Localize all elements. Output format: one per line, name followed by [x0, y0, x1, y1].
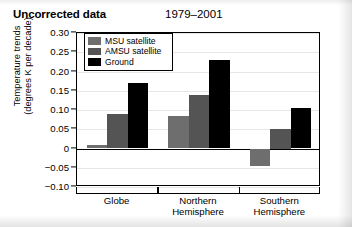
y-axis-tick-mark	[71, 128, 76, 129]
gridline	[77, 187, 319, 188]
y-axis-tick-mark	[71, 166, 76, 167]
gridline	[77, 168, 319, 169]
y-axis-tick-mark	[71, 51, 76, 52]
x-axis-category-label: SouthernHemisphere	[219, 195, 339, 217]
y-axis-tick-mark	[71, 31, 76, 32]
bar	[189, 95, 210, 149]
legend-label: Ground	[105, 58, 134, 67]
y-axis-tick-mark	[71, 70, 76, 71]
y-axis-tick-mark	[71, 147, 76, 148]
x-axis-line	[76, 193, 320, 194]
bar	[107, 114, 128, 149]
y-axis-tick-label: 0.05	[29, 123, 69, 134]
x-axis-tick-mark	[319, 187, 320, 194]
bar	[128, 83, 149, 148]
zero-line	[77, 149, 319, 150]
x-axis-category-line: Hemisphere	[219, 206, 339, 217]
gridline	[77, 72, 319, 73]
legend-swatch	[88, 37, 101, 45]
bar	[291, 108, 312, 148]
y-axis-tick-mark	[71, 89, 76, 90]
x-axis-category-line: Southern	[219, 195, 339, 206]
bar	[270, 129, 291, 148]
legend-item: MSU satellite	[88, 36, 169, 46]
x-axis-tick-mark	[76, 187, 77, 194]
legend-item: AMSU satellite	[88, 47, 169, 57]
legend-item: Ground	[88, 57, 169, 67]
page-edge-shading-top	[0, 0, 352, 5]
gridline	[77, 91, 319, 92]
bar	[168, 116, 189, 149]
x-axis-tick-mark	[157, 187, 158, 194]
legend-label: AMSU satellite	[105, 47, 161, 56]
y-axis-tick-label: 0	[29, 142, 69, 153]
bar	[250, 149, 271, 166]
y-axis-tick-label: −0.05	[29, 161, 69, 172]
y-axis-tick-label: 0.30	[29, 27, 69, 38]
legend-label: MSU satellite	[105, 37, 156, 46]
y-axis-tick-label: 0.25	[29, 46, 69, 57]
y-axis-tick-label: 0.15	[29, 84, 69, 95]
bar	[87, 145, 108, 149]
legend-swatch	[88, 58, 101, 66]
x-axis-tick-mark	[239, 187, 240, 194]
y-axis-tick-mark	[71, 108, 76, 109]
chart-subtitle-period: 1979–2001	[165, 8, 223, 20]
y-axis-label-line1: Temperature trends	[12, 0, 23, 146]
page-edge-shading-right	[338, 0, 352, 227]
y-axis-tick-label: −0.10	[29, 181, 69, 192]
legend: MSU satelliteAMSU satelliteGround	[84, 33, 173, 71]
legend-swatch	[88, 48, 101, 56]
y-axis-tick-label: 0.10	[29, 104, 69, 115]
y-axis-tick-label: 0.20	[29, 65, 69, 76]
bar	[209, 60, 230, 149]
chart-figure: Uncorrected data 1979–2001 Temperature t…	[0, 0, 352, 227]
